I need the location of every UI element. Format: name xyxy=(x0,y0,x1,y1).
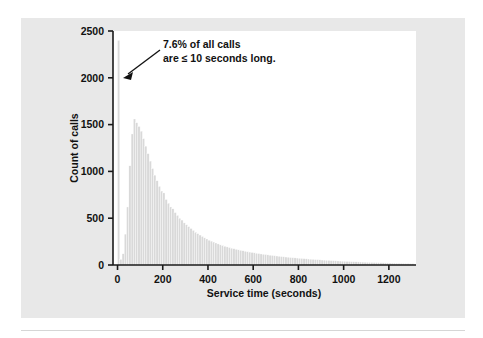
y-axis-tick-label: 0 xyxy=(98,259,104,271)
histogram-bar xyxy=(190,229,192,266)
histogram-bar xyxy=(222,246,224,265)
histogram-bar xyxy=(145,146,147,265)
histogram-bar xyxy=(120,259,122,265)
histogram-bar xyxy=(118,40,120,265)
histogram-bar xyxy=(246,252,248,265)
histogram-bar xyxy=(192,230,194,265)
histogram-bar xyxy=(176,215,178,265)
histogram-bar xyxy=(301,258,303,265)
histogram-bar xyxy=(285,257,287,265)
histogram-bar xyxy=(224,246,226,265)
histogram-bar xyxy=(210,241,212,265)
histogram-bar xyxy=(292,258,294,265)
histogram-bar xyxy=(258,254,260,265)
histogram-bar xyxy=(296,258,298,265)
histogram-bar xyxy=(233,249,235,265)
bottom-divider-rule xyxy=(21,330,465,331)
figure-root: 05001000150020002500 0200400600800100012… xyxy=(0,0,483,338)
histogram-bar xyxy=(183,223,185,265)
histogram-bar xyxy=(255,253,257,265)
histogram-bar xyxy=(294,258,296,265)
histogram-bar xyxy=(251,252,253,265)
histogram-bar xyxy=(235,249,237,265)
y-axis-tick-label: 2000 xyxy=(81,72,105,84)
histogram-bar xyxy=(219,245,221,265)
histogram-bar xyxy=(265,255,267,265)
histogram-bar xyxy=(140,131,142,265)
histogram-bar xyxy=(158,186,160,265)
histogram-bar xyxy=(170,207,172,265)
y-axis-tick-label: 1500 xyxy=(81,118,105,130)
histogram-bar xyxy=(298,258,300,265)
histogram-bar xyxy=(280,257,282,265)
histogram-bar xyxy=(160,191,162,265)
histogram-bar xyxy=(208,240,210,265)
histogram-bar xyxy=(124,234,126,265)
x-axis-tick-label: 0 xyxy=(115,273,121,285)
histogram-bar xyxy=(151,169,153,265)
histogram-bar xyxy=(136,123,138,265)
y-axis-tick-label: 1000 xyxy=(81,165,105,177)
histogram-bar xyxy=(203,238,205,265)
histogram-bar xyxy=(217,244,219,265)
x-axis-tick-label: 400 xyxy=(199,273,217,285)
histogram-bar xyxy=(172,209,174,265)
histogram-bar xyxy=(271,255,273,265)
histogram-bar xyxy=(237,250,239,265)
histogram-bar xyxy=(201,236,203,265)
histogram-bar xyxy=(269,255,271,265)
histogram-bar xyxy=(226,247,228,265)
histogram-bar xyxy=(142,139,144,265)
histogram-bar xyxy=(167,203,169,265)
histogram-bar xyxy=(133,119,135,265)
histogram-bar xyxy=(231,248,233,265)
histogram-bar xyxy=(314,260,316,265)
histogram-bar xyxy=(242,251,244,265)
histogram-bar xyxy=(194,232,196,265)
histogram-bar xyxy=(249,252,251,265)
histogram-bar xyxy=(212,242,214,265)
annotation-line-1: 7.6% of all calls xyxy=(163,38,241,50)
histogram-bars xyxy=(118,40,414,265)
x-axis-tick-label: 600 xyxy=(244,273,262,285)
histogram-bar xyxy=(240,250,242,265)
histogram-bar xyxy=(206,239,208,265)
y-axis-tick-label: 500 xyxy=(86,212,104,224)
histogram-bar xyxy=(138,126,140,265)
x-axis-tick-label: 1000 xyxy=(332,273,356,285)
histogram-bar xyxy=(185,225,187,265)
histogram-bar xyxy=(199,235,201,265)
histogram-bar xyxy=(163,193,165,265)
annotation-line-2: are ≤ 10 seconds long. xyxy=(163,52,276,64)
y-axis-tick-label: 2500 xyxy=(81,25,105,37)
x-axis-tick-label: 200 xyxy=(154,273,172,285)
histogram-bar xyxy=(274,256,276,265)
histogram-bar xyxy=(267,255,269,265)
histogram-bar xyxy=(154,175,156,265)
histogram-bar xyxy=(312,259,314,265)
x-axis-tick-labels: 020040060080010001200 xyxy=(115,273,401,285)
histogram-bar xyxy=(127,207,129,265)
histogram-bar xyxy=(260,254,262,265)
histogram-bar xyxy=(310,259,312,265)
histogram-bar xyxy=(131,134,133,265)
x-axis-title: Service time (seconds) xyxy=(207,287,321,299)
histogram-bar xyxy=(289,258,291,265)
x-axis-tick-label: 800 xyxy=(290,273,308,285)
histogram-bar xyxy=(278,256,280,265)
histogram-chart: 05001000150020002500 0200400600800100012… xyxy=(0,0,483,338)
histogram-bar xyxy=(262,254,264,265)
histogram-bar xyxy=(129,166,131,265)
histogram-bar xyxy=(228,248,230,265)
histogram-bar xyxy=(188,227,190,265)
histogram-bar xyxy=(174,213,176,265)
histogram-bar xyxy=(276,256,278,265)
histogram-bar xyxy=(181,220,183,265)
histogram-bar xyxy=(244,251,246,265)
histogram-bar xyxy=(317,260,319,265)
histogram-bar xyxy=(253,253,255,265)
histogram-bar xyxy=(197,234,199,265)
histogram-bar xyxy=(156,181,158,265)
histogram-bar xyxy=(215,243,217,265)
histogram-bar xyxy=(147,154,149,265)
